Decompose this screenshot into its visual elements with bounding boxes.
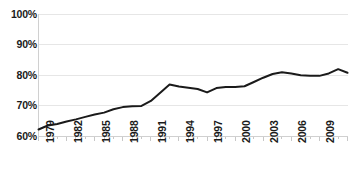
x-axis-tick-label: 1985 bbox=[100, 120, 112, 143]
x-axis-tick-label: 1994 bbox=[184, 120, 196, 143]
x-axis-tick-label: 2009 bbox=[324, 120, 336, 143]
x-axis-tick-label: 2006 bbox=[296, 120, 308, 143]
x-axis-tick-label: 1997 bbox=[212, 120, 224, 143]
x-axis-tick-label: 1979 bbox=[44, 120, 56, 143]
x-axis-tick-label: 1988 bbox=[128, 120, 140, 143]
x-axis-tick-label: 2003 bbox=[268, 120, 280, 143]
x-axis-tick-label: 2000 bbox=[240, 120, 252, 143]
x-axis-tick-label: 1982 bbox=[72, 120, 84, 143]
x-axis-labels: 1979198219851988199119941997200020032006… bbox=[0, 0, 352, 181]
x-axis-tick-label: 1991 bbox=[156, 120, 168, 143]
line-chart: 60%70%80%90%100% 19791982198519881991199… bbox=[0, 0, 352, 181]
